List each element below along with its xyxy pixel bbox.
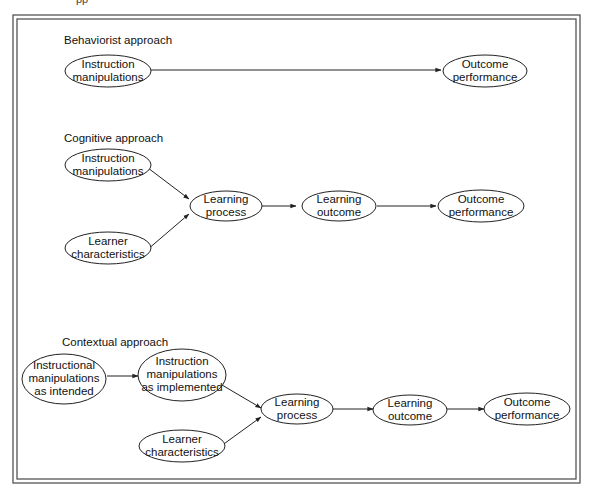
svg-text:Learner: Learner [162,433,202,445]
svg-text:manipulations: manipulations [29,372,100,384]
node-learner-characteristics: Learner characteristics [139,430,225,462]
node-outcome-performance: Outcome performance [484,393,570,425]
svg-text:outcome: outcome [317,206,361,218]
node-learner-characteristics: Learner characteristics [65,232,151,264]
node-outcome-performance: Outcome performance [438,190,524,222]
svg-text:Learning: Learning [388,397,433,409]
node-instruction-manipulations: Instruction manipulations [65,149,151,181]
svg-text:Outcome: Outcome [462,58,509,70]
edge-instruction-to-process [148,168,189,199]
svg-text:outcome: outcome [388,410,432,422]
svg-text:Outcome: Outcome [504,396,551,408]
svg-text:performance: performance [449,206,514,218]
svg-text:Instruction: Instruction [81,152,134,164]
node-instruction-manipulations-implemented: Instruction manipulations as implemented [138,349,226,401]
svg-text:Instruction: Instruction [155,355,208,367]
svg-text:performance: performance [495,409,560,421]
svg-text:Outcome: Outcome [458,193,505,205]
node-learning-outcome: Learning outcome [302,191,376,221]
node-outcome-performance: Outcome performance [443,55,527,87]
svg-text:Learning: Learning [317,193,362,205]
svg-text:Learning: Learning [275,396,320,408]
edge-learner-to-process [147,214,189,250]
svg-text:process: process [206,206,247,218]
svg-text:Instructional: Instructional [33,359,95,371]
svg-text:manipulations: manipulations [147,368,218,380]
edge-implemented-to-process [222,385,261,408]
approaches-diagram: pp Behaviorist approach Instruction mani… [0,0,593,493]
edge-learner-to-process [221,417,261,446]
behaviorist-title: Behaviorist approach [64,34,172,46]
svg-text:Instruction: Instruction [81,58,134,70]
svg-text:Learner: Learner [88,235,128,247]
svg-text:characteristics: characteristics [145,446,219,458]
clipped-caption-fragment: pp [76,0,88,5]
svg-text:process: process [277,409,318,421]
svg-text:manipulations: manipulations [73,71,144,83]
svg-text:characteristics: characteristics [71,248,145,260]
cognitive-section: Cognitive approach Instruction manipulat… [64,132,524,264]
contextual-section: Contextual approach Instructional manipu… [22,336,570,462]
svg-text:as implemented: as implemented [141,381,222,393]
behaviorist-section: Behaviorist approach Instruction manipul… [64,34,527,87]
svg-text:Learning: Learning [204,193,249,205]
svg-text:manipulations: manipulations [73,165,144,177]
node-learning-process: Learning process [261,394,333,424]
node-instructional-manipulations-intended: Instructional manipulations as intended [22,354,106,404]
node-learning-process: Learning process [190,191,262,221]
svg-text:as intended: as intended [34,385,93,397]
cognitive-title: Cognitive approach [64,132,163,144]
svg-text:performance: performance [453,71,518,83]
node-learning-outcome: Learning outcome [373,395,447,425]
contextual-title: Contextual approach [62,336,168,348]
node-instruction-manipulations: Instruction manipulations [65,55,151,87]
